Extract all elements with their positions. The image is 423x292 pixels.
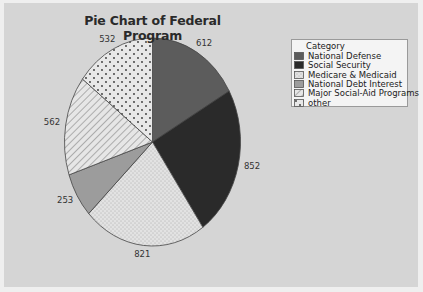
pie-slices xyxy=(65,38,241,246)
slice-value-label: 253 xyxy=(57,195,73,205)
legend-swatch xyxy=(294,99,304,107)
slice-value-label: 532 xyxy=(99,34,115,44)
legend-swatch xyxy=(294,89,304,97)
legend-title: Category xyxy=(306,41,345,51)
legend-swatch xyxy=(294,61,304,69)
slice-value-label: 821 xyxy=(134,249,150,259)
slice-value-label: 852 xyxy=(244,161,260,171)
legend-swatch xyxy=(294,52,304,60)
slice-value-label: 562 xyxy=(44,117,60,127)
legend-swatch xyxy=(294,80,304,88)
legend-swatch xyxy=(294,71,304,79)
legend-item: other xyxy=(294,98,331,108)
legend: Category National DefenseSocial Security… xyxy=(291,39,408,107)
slice-value-label: 612 xyxy=(196,38,212,48)
legend-label: other xyxy=(308,98,331,108)
